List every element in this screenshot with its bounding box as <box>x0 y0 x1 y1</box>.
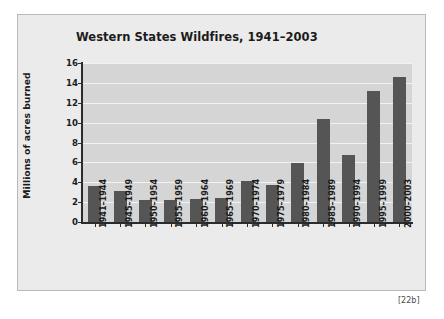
gridline <box>82 123 412 124</box>
x-axis-tick-label: 1985–1989 <box>327 179 337 228</box>
x-axis-tick-mark <box>323 224 324 227</box>
x-axis-tick-mark <box>222 224 223 227</box>
y-axis-tick-label: 12 <box>54 98 78 108</box>
x-axis-tick-label: 2000–2003 <box>403 179 413 228</box>
x-axis-tick-label: 1950–1954 <box>149 179 159 228</box>
y-axis-tick-mark <box>78 103 82 104</box>
x-axis-tick-mark <box>272 224 273 227</box>
x-axis-tick-label: 1970–1974 <box>251 179 261 228</box>
x-axis-tick-mark <box>196 224 197 227</box>
x-axis-tick-mark <box>298 224 299 227</box>
x-axis-tick-mark <box>399 224 400 227</box>
figure-container: Western States Wildfires, 1941–2003 Mill… <box>0 0 444 319</box>
x-axis-tick-label: 1941–1944 <box>98 179 108 228</box>
x-axis-tick-mark <box>95 224 96 227</box>
y-axis-tick-mark <box>78 123 82 124</box>
x-axis-tick-label: 1990–1994 <box>352 179 362 228</box>
y-axis-tick-mark <box>78 83 82 84</box>
gridline <box>82 103 412 104</box>
chart-title: Western States Wildfires, 1941–2003 <box>76 30 406 44</box>
y-axis-tick-label: 6 <box>54 157 78 167</box>
y-axis-tick-label: 16 <box>54 58 78 68</box>
x-axis-tick-label: 1965–1969 <box>225 179 235 228</box>
x-axis-tick-label: 1980–1984 <box>301 179 311 228</box>
gridline <box>82 83 412 84</box>
y-axis-tick-label: 4 <box>54 177 78 187</box>
gridline <box>82 162 412 163</box>
x-axis-tick-mark <box>349 224 350 227</box>
y-axis-tick-label: 14 <box>54 78 78 88</box>
y-axis-tick-label: 0 <box>54 217 78 227</box>
x-axis-tick-mark <box>145 224 146 227</box>
y-axis-tick-mark <box>78 222 82 223</box>
y-axis-tick-label: 2 <box>54 197 78 207</box>
x-axis-tick-label: 1945–1949 <box>124 179 134 228</box>
x-axis-tick-mark <box>120 224 121 227</box>
y-axis-tick-mark <box>78 63 82 64</box>
x-axis-tick-label: 1995–1999 <box>378 179 388 228</box>
y-axis-tick-mark <box>78 162 82 163</box>
x-axis-tick-label: 1960–1964 <box>200 179 210 228</box>
y-axis-tick-label: 8 <box>54 138 78 148</box>
y-axis-title: Millions of acres burned <box>21 71 32 201</box>
figure-caption: [22b] <box>398 296 420 305</box>
y-axis-tick-mark <box>78 182 82 183</box>
x-axis-tick-mark <box>247 224 248 227</box>
y-axis-tick-mark <box>78 143 82 144</box>
x-axis-tick-label: 1955–1959 <box>174 179 184 228</box>
y-axis-tick-label: 10 <box>54 118 78 128</box>
x-axis-tick-mark <box>171 224 172 227</box>
x-axis-tick-mark <box>374 224 375 227</box>
y-axis-tick-mark <box>78 202 82 203</box>
gridline <box>82 143 412 144</box>
gridline <box>82 63 412 64</box>
x-axis-tick-label: 1975–1979 <box>276 179 286 228</box>
